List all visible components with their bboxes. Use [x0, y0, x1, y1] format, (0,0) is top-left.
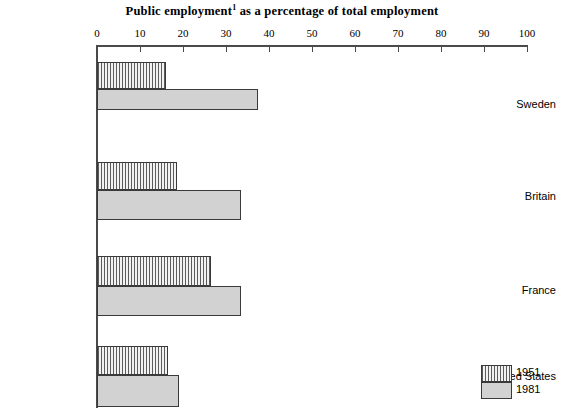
legend-swatch-1981 — [481, 382, 512, 399]
legend-label-1951: 1951 — [516, 366, 540, 378]
chart-legend: 19511981 — [481, 365, 561, 399]
bar-france-1981 — [97, 286, 241, 316]
x-tick-mark-60 — [355, 45, 356, 52]
bar-britain-1981 — [97, 190, 241, 220]
x-tick-mark-0 — [97, 45, 98, 52]
x-tick-label-90: 90 — [479, 27, 490, 39]
bar-united-states-1981 — [97, 375, 179, 407]
category-label-sweden: Sweden — [476, 98, 564, 110]
x-tick-mark-50 — [312, 45, 313, 52]
x-tick-mark-20 — [183, 45, 184, 52]
x-tick-mark-30 — [226, 45, 227, 52]
x-tick-mark-40 — [269, 45, 270, 52]
x-tick-label-10: 10 — [135, 27, 146, 39]
x-tick-mark-80 — [441, 45, 442, 52]
legend-item-1951: 1951 — [481, 365, 561, 382]
legend-label-1981: 1981 — [516, 383, 540, 395]
x-tick-label-50: 50 — [307, 27, 318, 39]
legend-swatch-1951 — [481, 365, 512, 382]
bar-france-1951 — [97, 256, 211, 286]
x-tick-mark-10 — [140, 45, 141, 52]
bar-sweden-1981 — [97, 89, 258, 110]
x-tick-label-60: 60 — [350, 27, 361, 39]
category-label-france: France — [476, 284, 564, 296]
x-tick-mark-90 — [484, 45, 485, 52]
x-tick-label-40: 40 — [264, 27, 275, 39]
bar-britain-1951 — [97, 162, 177, 190]
chart-container: Public employment1 as a percentage of to… — [0, 0, 564, 416]
bar-united-states-1951 — [97, 346, 168, 375]
legend-item-1981: 1981 — [481, 382, 561, 399]
category-label-britain: Britain — [476, 190, 564, 202]
x-tick-label-0: 0 — [94, 27, 100, 39]
x-tick-label-80: 80 — [436, 27, 447, 39]
plot-area: 0102030405060708090100 SwedenBritainFran… — [0, 0, 564, 416]
x-tick-label-100: 100 — [519, 27, 536, 39]
bar-sweden-1951 — [97, 62, 166, 89]
x-tick-label-30: 30 — [221, 27, 232, 39]
x-tick-mark-70 — [398, 45, 399, 52]
x-tick-mark-100 — [527, 45, 528, 52]
x-tick-label-70: 70 — [393, 27, 404, 39]
x-tick-label-20: 20 — [178, 27, 189, 39]
